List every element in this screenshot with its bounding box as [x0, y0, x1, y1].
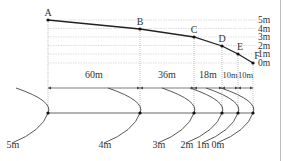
contour-arc [12, 88, 49, 143]
contour-arc [217, 88, 254, 143]
contour-label: 3m [153, 139, 166, 150]
axis-point-dot [138, 111, 141, 114]
arrow-head-icon [238, 87, 241, 90]
arrow-head-icon [137, 87, 140, 90]
contour-labels: 5m4m3m2m1m0m [7, 139, 225, 150]
contour-arc [158, 88, 195, 143]
contour-arc [186, 88, 223, 143]
distance-label: 18m [199, 69, 217, 80]
axis-point-dot [192, 111, 195, 114]
profile-point-dot [46, 18, 49, 21]
distance-label: 10m [238, 70, 254, 80]
distance-label: 60m [85, 69, 103, 80]
profile-point-dot [251, 61, 254, 64]
contour-arc [104, 88, 141, 143]
arrow-head-icon [194, 87, 197, 90]
contour-label: 5m [7, 139, 20, 150]
contour-arcs [12, 88, 255, 143]
arrow-head-icon [250, 87, 253, 90]
distance-dimensions: 60m36m18m10m10m [48, 69, 253, 90]
arrow-head-icon [48, 87, 51, 90]
contour-diagram: ABCDEF 5m4m3m2m1m0m 60m36m18m10m10m 5m4m… [0, 0, 284, 161]
point-label: C [191, 24, 198, 35]
contour-label: 4m [99, 139, 112, 150]
contour-label: 0m [212, 139, 225, 150]
profile-point-dot [220, 44, 223, 47]
arrow-head-icon [140, 87, 143, 90]
point-label: D [218, 33, 225, 44]
contour-label: 2m [181, 139, 194, 150]
axis-point-dot [220, 111, 223, 114]
axis-point-dot [251, 111, 254, 114]
point-label: B [137, 16, 144, 27]
axis-point-dot [236, 111, 239, 114]
arrow-head-icon [235, 87, 238, 90]
contour-label: 1m [197, 139, 210, 150]
distance-label: 36m [158, 69, 176, 80]
axis-point-dot [46, 111, 49, 114]
height-level-labels: 5m4m3m2m1m0m [258, 15, 271, 68]
profile-point-dot [138, 27, 141, 30]
point-label: A [44, 7, 52, 18]
profile-point-dot [236, 52, 239, 55]
point-label: E [237, 41, 243, 52]
right-border [280, 0, 281, 161]
height-level-label: 0m [258, 58, 271, 68]
profile-point-dot [192, 35, 195, 38]
point-labels: ABCDEF [44, 7, 260, 61]
distance-label: 10m [222, 70, 238, 80]
